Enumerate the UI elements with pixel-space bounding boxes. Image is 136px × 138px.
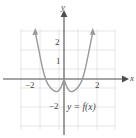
tick-label-y-1: 1 (56, 57, 61, 66)
graph-canvas (0, 0, 136, 138)
y-axis-label: y (61, 3, 65, 12)
tick-label-y-2: 2 (55, 38, 60, 47)
graph-figure: y x 2 1 −2 −2 2 y = f(x) (0, 0, 136, 138)
tick-label-x-negative-2: −2 (25, 81, 35, 90)
x-axis-arrowhead (122, 76, 129, 83)
tick-label-y-negative-2: −2 (49, 102, 59, 111)
curve-arrowhead-left (32, 28, 38, 35)
x-axis-label: x (130, 74, 134, 83)
function-equation-label: y = f(x) (67, 103, 96, 113)
curve-arrowhead-right (90, 28, 96, 35)
tick-label-x-2: 2 (95, 81, 100, 90)
